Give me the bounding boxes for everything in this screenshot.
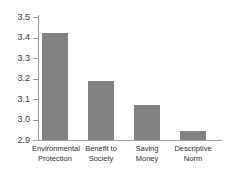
x-axis-label: Environmental Protection <box>32 144 78 163</box>
x-axis-label: Saving Money <box>124 144 170 163</box>
bar-chart: 3.53.43.33.23.13.02.9 Environmental Prot… <box>0 0 226 177</box>
bar <box>42 33 68 140</box>
bar <box>180 131 206 140</box>
x-axis-label: Descriptive Norm <box>170 144 216 163</box>
bar <box>88 81 114 140</box>
bar <box>134 105 160 140</box>
x-axis-label: Benefit to Society <box>78 144 124 163</box>
